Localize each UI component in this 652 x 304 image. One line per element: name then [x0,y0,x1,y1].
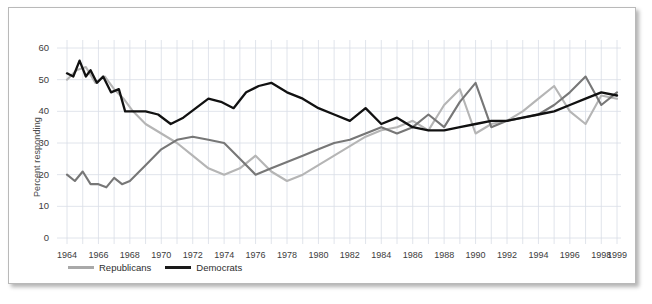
x-tick-label: 1986 [396,250,430,260]
series-line-democrats [67,61,617,131]
series-line-independents [67,77,617,188]
x-tick-label: 1988 [427,250,461,260]
chart-legend: RepublicansDemocrats [68,262,242,273]
legend-swatch-icon [165,266,191,269]
y-tick-label: 0 [29,232,49,243]
legend-label: Republicans [99,262,151,273]
x-tick-label: 1976 [239,250,273,260]
x-tick-label: 1964 [50,250,84,260]
legend-swatch-icon [68,266,94,269]
x-tick-label: 1966 [81,250,115,260]
legend-label: Democrats [196,262,242,273]
x-tick-label: 1978 [270,250,304,260]
x-tick-label: 1970 [144,250,178,260]
x-tick-label: 1992 [490,250,524,260]
chart-screenshot: Percent responding 6050403020100 1964196… [0,0,652,304]
x-tick-label: 1972 [176,250,210,260]
y-tick-label: 60 [29,42,49,53]
y-tick-label: 50 [29,74,49,85]
y-axis-title: Percent responding [32,117,42,197]
x-tick-label: 1990 [459,250,493,260]
y-tick-label: 10 [29,200,49,211]
x-tick-label: 1984 [364,250,398,260]
x-tick-label: 1999 [600,250,634,260]
legend-item-rep: Republicans [68,262,151,273]
y-tick-label: 40 [29,105,49,116]
x-tick-label: 1982 [333,250,367,260]
x-tick-label: 1994 [521,250,555,260]
y-tick-label: 30 [29,137,49,148]
series-line-republicans [67,67,617,181]
legend-item-dem: Democrats [165,262,242,273]
x-tick-label: 1968 [113,250,147,260]
x-tick-label: 1980 [301,250,335,260]
x-tick-label: 1974 [207,250,241,260]
x-tick-label: 1996 [553,250,587,260]
y-tick-label: 20 [29,169,49,180]
